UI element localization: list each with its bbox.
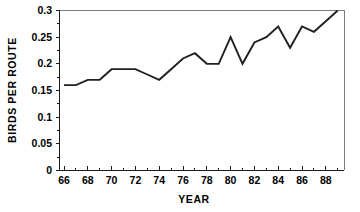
y-tick-label-0.1: 0.1 [37, 111, 52, 123]
y-tick-label-0.25: 0.25 [32, 31, 53, 43]
chart-svg: 0 0.05 0.1 0.15 0.2 0.25 0.3 [0, 0, 360, 212]
x-tick-label-82: 82 [249, 174, 261, 186]
y-tick-label-0.15: 0.15 [32, 84, 53, 96]
x-tick-label-76: 76 [177, 174, 189, 186]
x-tick-label-68: 68 [82, 174, 94, 186]
y-major-ticks [56, 11, 60, 171]
x-tick-label-78: 78 [201, 174, 213, 186]
x-tick-label-70: 70 [106, 174, 118, 186]
data-series-line [64, 11, 338, 86]
y-axis-title: BIRDS PER ROUTE [6, 37, 18, 143]
y-tick-label-0.3: 0.3 [37, 4, 52, 16]
y-tick-label-0.2: 0.2 [37, 57, 52, 69]
x-tick-label-80: 80 [225, 174, 237, 186]
x-tick-label-74: 74 [153, 174, 165, 186]
x-axis-title: YEAR [178, 193, 210, 205]
y-tick-label-0.05: 0.05 [32, 137, 53, 149]
x-tick-label-88: 88 [320, 174, 332, 186]
screenshot-root: 0 0.05 0.1 0.15 0.2 0.25 0.3 [0, 0, 360, 212]
x-tick-label-86: 86 [296, 174, 308, 186]
y-tick-label-0: 0 [46, 164, 52, 176]
x-tick-label-72: 72 [130, 174, 142, 186]
x-tick-label-84: 84 [272, 174, 284, 186]
plot-frame [59, 10, 344, 170]
x-tick-label-66: 66 [58, 174, 70, 186]
line-chart-figure: 0 0.05 0.1 0.15 0.2 0.25 0.3 [0, 0, 360, 212]
